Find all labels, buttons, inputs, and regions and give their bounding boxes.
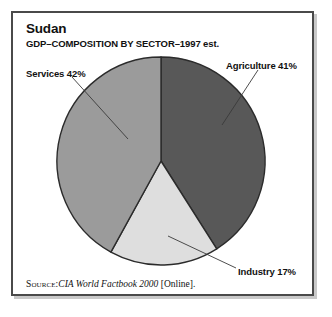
figure-container: Sudan GDP–COMPOSITION BY SECTOR–1997 est… (0, 0, 332, 317)
pie-label-industry: Industry 17% (238, 266, 296, 277)
pie-label-agriculture: Agriculture 41% (226, 60, 297, 71)
source-suffix: [Online]. (158, 279, 195, 289)
source-note: Source:CIA World Factbook 2000 [Online]. (26, 279, 195, 289)
source-title: CIA World Factbook 2000 (58, 279, 158, 289)
pie-slices (57, 57, 265, 265)
pie-label-services: Services 42% (26, 68, 86, 79)
source-keyword: Source: (26, 279, 58, 289)
